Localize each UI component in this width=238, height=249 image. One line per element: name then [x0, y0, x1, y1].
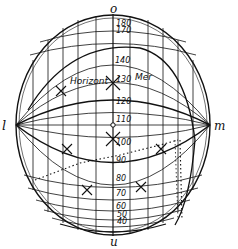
pole-label-top: o	[110, 2, 117, 16]
scale-80: 80	[116, 174, 126, 183]
meridian-label: Mer	[135, 72, 153, 82]
pole-label-left: l	[2, 118, 6, 133]
sphere-net-svg: o u l m Horizont Mer 180 170 140 130 120…	[0, 0, 238, 249]
scale-40: 40	[117, 217, 127, 226]
scale-110: 110	[116, 115, 131, 124]
scale-70: 70	[116, 189, 126, 198]
sphere-diagram: o u l m Horizont Mer 180 170 140 130 120…	[0, 0, 238, 249]
pole-label-bottom: u	[110, 235, 118, 249]
scale-140: 140	[115, 56, 130, 65]
scale-100: 100	[116, 138, 131, 147]
scale-numbers: 180 170 140 130 120 110 100 90 80 70 60 …	[115, 19, 131, 226]
scale-90: 90	[116, 156, 126, 165]
meridian-curve	[28, 47, 195, 225]
scale-170: 170	[116, 26, 131, 35]
horizon-label: Horizont	[70, 76, 108, 86]
center-point	[111, 123, 115, 127]
scale-120: 120	[116, 97, 131, 106]
pole-label-right: m	[214, 119, 225, 133]
scale-130: 130	[116, 75, 131, 84]
